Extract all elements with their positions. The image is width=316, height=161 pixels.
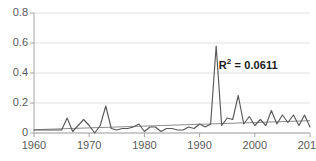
y-tick-label-0: 0: [2, 127, 28, 138]
gridlines: [34, 13, 310, 133]
r-squared-annotation: R2 = 0.0611: [219, 57, 278, 71]
y-tick-label-0.8: 0.8: [2, 7, 28, 18]
y-tick-label-0.6: 0.6: [2, 37, 28, 48]
x-tick-label-1960: 1960: [14, 140, 54, 151]
y-tick-label-0.4: 0.4: [2, 67, 28, 78]
y-tick-label-0.2: 0.2: [2, 97, 28, 108]
x-tick-label-1970: 1970: [69, 140, 109, 151]
x-tick-label-1990: 1990: [180, 140, 220, 151]
x-tick-label-2010: 2010: [290, 140, 316, 151]
y-tick-marks: [30, 13, 34, 133]
x-tick-marks: [34, 133, 310, 137]
plot-area: [0, 0, 316, 161]
x-tick-label-1980: 1980: [124, 140, 164, 151]
chart-container: 00.20.40.60.8 196019701980199020002010 R…: [0, 0, 316, 161]
x-tick-label-2000: 2000: [235, 140, 275, 151]
